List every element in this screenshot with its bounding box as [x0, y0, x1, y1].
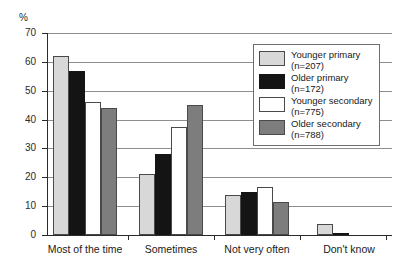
- legend-text-wrap: Younger secondary(n=775): [291, 96, 373, 117]
- legend-item: Older primary(n=172): [259, 73, 373, 94]
- bar-chart: % 010203040506070 Most of the timeSometi…: [0, 0, 403, 264]
- y-tick-label: 0: [12, 230, 36, 240]
- x-tick-mark: [300, 235, 301, 240]
- legend-text-wrap: Younger primary(n=207): [291, 50, 360, 71]
- x-tick-mark: [214, 235, 215, 240]
- legend-item: Younger primary(n=207): [259, 50, 373, 71]
- y-tick-label: 70: [12, 28, 36, 38]
- x-tick-mark: [128, 235, 129, 240]
- bar: [155, 154, 171, 235]
- legend-swatch: [259, 74, 285, 89]
- y-tick-label: 20: [12, 172, 36, 182]
- legend-sample-size: (n=172): [291, 84, 349, 95]
- bar: [241, 192, 257, 235]
- y-tick-label: 30: [12, 143, 36, 153]
- bar: [225, 195, 241, 235]
- x-axis-line: [47, 235, 392, 236]
- chart-legend: Younger primary(n=207)Older primary(n=17…: [253, 44, 380, 146]
- bar: [171, 127, 187, 235]
- y-axis-unit-label: %: [19, 12, 28, 23]
- y-tick-label: 40: [12, 115, 36, 125]
- legend-swatch: [259, 97, 285, 112]
- legend-text-wrap: Older secondary(n=788): [291, 119, 361, 140]
- bar: [257, 187, 273, 235]
- legend-label: Older secondary: [291, 119, 361, 130]
- legend-item: Younger secondary(n=775): [259, 96, 373, 117]
- bar: [273, 202, 289, 235]
- bar: [101, 108, 117, 235]
- cropped-top-text: [120, 0, 260, 3]
- legend-label: Younger secondary: [291, 96, 373, 107]
- bar: [139, 174, 155, 235]
- bar: [53, 56, 69, 235]
- x-axis-label: Don't know: [289, 243, 403, 255]
- y-tick-label: 10: [12, 201, 36, 211]
- bar: [69, 71, 85, 236]
- legend-text-wrap: Older primary(n=172): [291, 73, 349, 94]
- bar: [333, 233, 349, 235]
- legend-swatch: [259, 51, 285, 66]
- bar: [187, 105, 203, 235]
- y-tick-label: 60: [12, 57, 36, 67]
- x-tick-mark: [386, 235, 387, 240]
- legend-label: Younger primary: [291, 50, 360, 61]
- legend-sample-size: (n=788): [291, 130, 361, 141]
- y-tick-label: 50: [12, 86, 36, 96]
- bar: [317, 224, 333, 236]
- legend-item: Older secondary(n=788): [259, 119, 373, 140]
- legend-label: Older primary: [291, 73, 349, 84]
- legend-swatch: [259, 120, 285, 135]
- bar: [85, 102, 101, 235]
- legend-sample-size: (n=775): [291, 107, 373, 118]
- legend-sample-size: (n=207): [291, 61, 360, 72]
